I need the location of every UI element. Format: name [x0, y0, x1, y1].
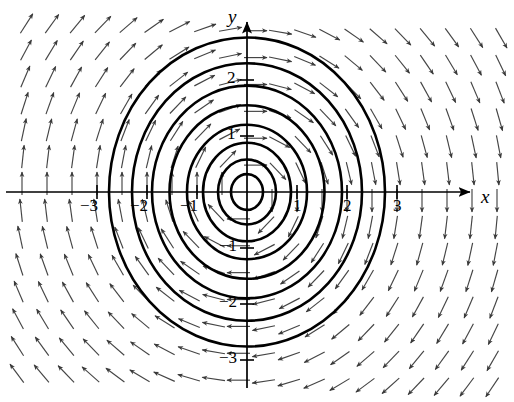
field-arrow — [383, 351, 399, 368]
field-arrow — [417, 243, 423, 265]
field-arrow — [304, 352, 324, 363]
field-arrow — [496, 55, 506, 76]
field-arrow — [487, 351, 498, 371]
field-arrow — [496, 82, 504, 103]
field-arrow — [442, 243, 447, 265]
field-arrow — [496, 135, 500, 158]
field-arrow — [438, 297, 448, 318]
field-arrow — [20, 199, 22, 222]
field-arrow — [118, 199, 122, 222]
field-arrow — [397, 162, 401, 185]
field-arrow — [220, 151, 236, 168]
field-arrow — [21, 40, 32, 60]
x-tick-label: −3 — [80, 196, 98, 216]
field-arrow — [331, 352, 350, 365]
field-arrow — [121, 145, 125, 168]
field-arrow — [252, 353, 275, 357]
field-arrow — [219, 54, 242, 59]
field-arrow — [42, 226, 47, 248]
field-arrow — [357, 351, 374, 366]
field-arrow — [194, 50, 215, 59]
field-arrow — [46, 93, 54, 115]
y-tick-label: −3 — [219, 348, 237, 368]
field-arrow — [396, 109, 406, 130]
field-arrow — [294, 56, 315, 65]
field-arrow — [202, 322, 225, 327]
field-arrow — [71, 67, 82, 87]
field-arrow — [83, 339, 99, 356]
field-arrow — [40, 254, 48, 276]
field-arrow — [37, 309, 49, 329]
field-arrow — [440, 270, 448, 292]
field-arrow — [471, 109, 478, 131]
field-arrow — [252, 326, 275, 331]
field-arrow — [319, 29, 339, 40]
field-arrow — [461, 351, 473, 370]
field-arrow — [179, 319, 200, 328]
field-arrow — [396, 135, 403, 157]
field-arrow — [320, 136, 332, 155]
field-arrow — [45, 14, 58, 33]
field-arrow — [395, 29, 411, 46]
y-tick-label: −1 — [219, 236, 237, 256]
field-arrow — [414, 270, 423, 291]
field-arrow — [468, 243, 473, 265]
field-arrow — [294, 30, 316, 38]
field-arrow — [110, 284, 124, 302]
field-arrow — [388, 270, 398, 291]
field-arrow — [391, 243, 398, 265]
field-arrow — [96, 93, 106, 114]
field-arrow — [420, 55, 433, 74]
x-tick-label: 3 — [393, 196, 402, 216]
field-arrow — [154, 344, 174, 355]
x-axis-label: x — [481, 186, 489, 208]
field-arrow — [395, 55, 409, 73]
field-arrow — [88, 255, 98, 276]
field-arrow — [491, 270, 497, 292]
field-arrow — [356, 378, 374, 392]
field-arrow — [412, 297, 423, 317]
field-arrow — [278, 379, 300, 386]
field-arrow — [394, 216, 398, 239]
field-arrow — [472, 162, 474, 185]
field-arrow — [120, 18, 137, 33]
field-arrow — [132, 314, 150, 329]
field-arrow — [46, 66, 56, 87]
field-arrow — [435, 351, 448, 370]
y-axis-label: y — [228, 6, 236, 28]
field-arrow — [64, 254, 73, 275]
field-arrow — [382, 378, 399, 393]
field-arrow — [131, 342, 150, 355]
field-arrow — [386, 297, 398, 316]
field-arrow — [70, 41, 83, 60]
field-arrow — [495, 216, 497, 239]
direction-field-plot — [0, 0, 514, 402]
field-arrow — [253, 299, 275, 305]
field-arrow — [493, 243, 497, 266]
field-arrow — [154, 372, 175, 381]
field-arrow — [496, 28, 507, 48]
field-arrow — [464, 297, 473, 318]
field-arrow — [385, 324, 399, 342]
field-arrow — [67, 226, 73, 248]
field-arrow — [85, 311, 99, 329]
field-arrow — [34, 365, 49, 383]
field-arrow — [421, 109, 430, 130]
field-arrow — [320, 109, 336, 126]
field-arrow — [346, 162, 351, 184]
field-arrow — [106, 368, 124, 382]
x-tick-label: 1 — [293, 196, 302, 216]
field-arrow — [95, 16, 111, 33]
field-arrow — [496, 108, 502, 130]
y-tick-label: 1 — [227, 124, 236, 144]
field-arrow — [69, 199, 72, 222]
field-arrow — [278, 352, 300, 360]
field-arrow — [365, 243, 373, 264]
field-arrow — [269, 30, 292, 34]
field-arrow — [466, 270, 473, 292]
field-arrow — [194, 24, 216, 32]
field-arrow — [145, 19, 164, 32]
field-arrow — [258, 217, 274, 234]
field-arrow — [170, 97, 186, 114]
field-arrow — [10, 364, 24, 382]
